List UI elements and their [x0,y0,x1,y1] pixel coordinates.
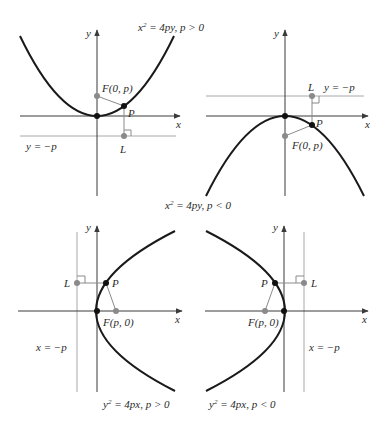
panel-top-left: y x F(0, p) P L y = −p x2 = 4py, p > 0 [20,21,205,196]
point-label: P [127,107,135,119]
x-axis-label: x [361,313,367,325]
focus-label: F(0, p) [101,82,133,95]
y-axis-label: y [85,27,91,39]
directrix-point-l [121,133,127,139]
vertex-point [94,113,100,119]
directrix-label: x = −p [35,341,67,353]
panel-bottom-left: y x F(p, 0) P L x = −p y2 = 4px, p > 0 [18,221,182,410]
directrix-point-label: L [119,143,126,155]
focus-point [282,133,288,139]
x-axis-label: x [174,313,180,325]
vertex-point [94,308,100,314]
focus-point [113,308,119,314]
x-axis-label: x [175,118,181,130]
equation-label: y2 = 4px, p < 0 [208,398,276,410]
directrix-point-label: L [63,277,70,289]
equation-label-top-right: x2 = 4py, p < 0 [164,199,232,211]
vertex-point [282,113,288,119]
focus-to-point-segment [97,96,124,106]
focus-point [262,308,268,314]
directrix-point-label: L [310,277,317,289]
vertex-point [281,308,287,314]
curve-point-p [121,103,127,109]
curve-point-p [272,280,278,286]
panel-bottom-right: y x F(p, 0) P L x = −p y2 = 4px, p < 0 [205,221,368,410]
y-axis-label: y [85,221,91,233]
parabola-figure: y x F(0, p) P L y = −p x2 = 4py, p > 0 y… [0,0,386,422]
focus-label: F(0, p) [291,139,323,152]
equation-label: y2 = 4px, p > 0 [102,398,170,410]
focus-label: F(p, 0) [102,316,134,329]
point-label: P [111,277,119,289]
directrix-point-l [301,280,307,286]
directrix-label: x = −p [308,341,340,353]
directrix-label: y = −p [323,81,355,93]
point-label: P [315,117,323,129]
equation-label: x2 = 4py, p > 0 [137,21,205,33]
curve-point-p [309,122,315,128]
directrix-point-label: L [307,81,314,93]
directrix-label: y = −p [25,140,57,152]
y-axis-label: y [273,27,279,39]
point-label: P [260,277,268,289]
directrix-point-l [74,280,80,286]
focus-to-point-segment [285,125,312,136]
curve-point-p [103,280,109,286]
directrix-point-l [309,93,315,99]
x-axis-label: x [364,118,370,130]
y-axis-label: y [272,221,278,233]
focus-label: F(p, 0) [247,316,279,329]
focus-point [94,93,100,99]
panel-top-right: y x F(0, p) P L y = −p [206,27,370,196]
